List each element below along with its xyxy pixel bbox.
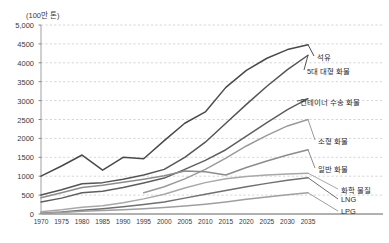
series-leader-line: [308, 120, 315, 141]
y-axis-tick-label: 3500: [0, 77, 34, 86]
series-leader-line: [308, 45, 314, 56]
y-axis-tick-label: 3000: [0, 96, 34, 105]
series-label: 5대 대형 화물: [307, 65, 350, 76]
series-label: LNG: [341, 195, 356, 204]
x-axis-tick-label: 1990: [116, 218, 131, 225]
x-axis-tick-label: 2015: [219, 218, 234, 225]
x-axis-tick-label: 2005: [177, 218, 192, 225]
y-axis-tick-label: 2500: [0, 115, 34, 124]
chart-plot-area: [0, 0, 389, 243]
y-axis-tick-label: 4000: [0, 58, 34, 67]
y-axis-tick-label: 2000: [0, 134, 34, 143]
x-axis-tick-label: 1970: [34, 218, 49, 225]
y-axis-tick-label: 0: [0, 210, 34, 219]
series-line: [41, 99, 308, 202]
y-axis-tick-label: 4500: [0, 39, 34, 48]
series-label: 화학 물질: [341, 184, 371, 195]
x-axis-tick-label: 1980: [75, 218, 90, 225]
series-label: 소형 화물: [318, 135, 348, 146]
x-axis-tick-label: 2000: [157, 218, 172, 225]
series-label: 컨테이너 수송 화물: [300, 96, 360, 107]
y-axis-tick-label: 5,000: [0, 21, 34, 30]
chart-container: (100만 톤) 0500100015002000250030003500400…: [0, 0, 389, 243]
series-label: LPG: [341, 207, 356, 216]
series-line: [41, 45, 308, 177]
series-label: 일반 화물: [318, 163, 348, 174]
y-axis-tick-label: 1500: [0, 153, 34, 162]
x-axis-tick-label: 2010: [198, 218, 213, 225]
x-axis-tick-label: 2025: [260, 218, 275, 225]
series-leader-line: [308, 150, 315, 168]
series-label: 석유: [317, 51, 331, 62]
x-axis-tick-label: 2020: [239, 218, 254, 225]
y-axis-tick-label: 500: [0, 191, 34, 200]
x-axis-tick-label: 1975: [54, 218, 69, 225]
x-axis-tick-label: 2030: [280, 218, 295, 225]
x-axis-tick-label: 1995: [136, 218, 151, 225]
y-axis-tick-label: 1000: [0, 172, 34, 181]
x-axis-tick-label: 2035: [301, 218, 316, 225]
x-axis-tick-label: 1985: [95, 218, 110, 225]
